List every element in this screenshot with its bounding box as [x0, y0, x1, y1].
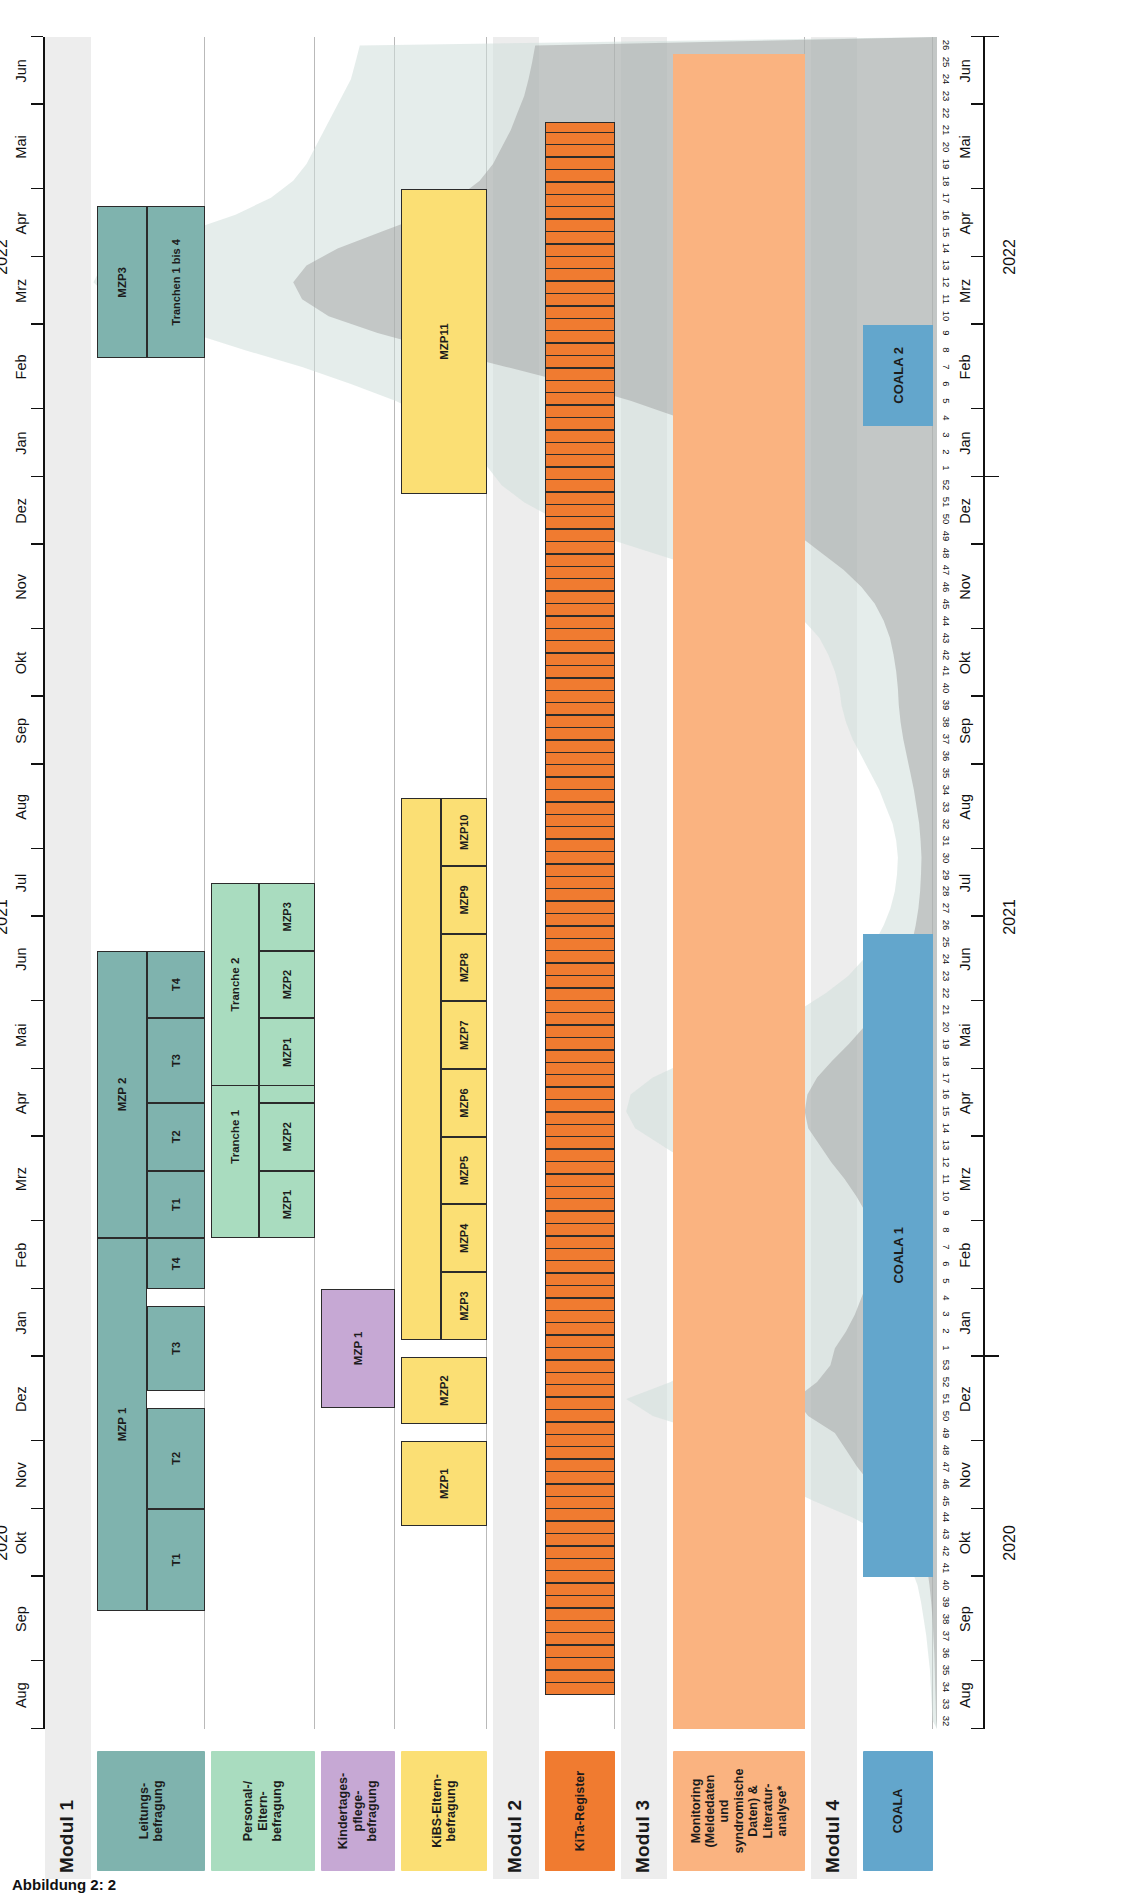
row-label-leitungsbefragung: Leitungs-befragung [97, 1751, 205, 1871]
gantt-segment-personal-elternbefragung-0-1[interactable]: MZP2 [259, 1102, 315, 1170]
gantt-segment-leitungsbefragung-1-0[interactable]: T1 [147, 1170, 205, 1238]
week-label-99: 26 [941, 40, 952, 51]
gantt-segment-personal-elternbefragung-0-0[interactable]: MZP1 [259, 1170, 315, 1238]
gantt-bar-kita-register-0[interactable] [545, 121, 615, 1695]
gantt-bar-coala-1[interactable]: COALA 2 [863, 324, 933, 426]
month-tick-16 [971, 543, 983, 544]
year-label-2020: 2020 [1001, 1525, 1019, 1561]
month-tick-6 [971, 1287, 983, 1288]
axis-baseline [983, 37, 985, 1729]
gantt-segment-leitungsbefragung-1-1[interactable]: T2 [147, 1102, 205, 1170]
top-month-tick-0 [31, 1727, 43, 1728]
top-month-label-17: Jan [13, 431, 29, 454]
week-label-54: 33 [941, 801, 952, 812]
gantt-bar-leitungsbefragung-2[interactable]: MZP3 [97, 206, 147, 358]
gantt-segment-personal-elternbefragung-1-0[interactable]: MZP1 [259, 1018, 315, 1086]
week-label-39: 18 [941, 1055, 952, 1066]
week-label-53: 32 [941, 818, 952, 829]
gantt-segment-kibs-elternbefragung-2-1[interactable]: MZP4 [441, 1204, 487, 1272]
gantt-segment-leitungsbefragung-2-0[interactable]: Tranchen 1 bis 4 [147, 206, 205, 358]
gantt-bar-coala-0[interactable]: COALA 1 [863, 933, 933, 1576]
gantt-bar-leitungsbefragung-0[interactable]: MZP 1 [97, 1238, 147, 1610]
week-label-76: 3 [941, 431, 952, 436]
top-month-tick-7 [31, 1220, 43, 1221]
gantt-bar-personal-elternbefragung-1[interactable]: Tranche 2 [211, 883, 259, 1086]
week-label-86: 13 [941, 260, 952, 271]
gantt-segment-kibs-elternbefragung-2-4[interactable]: MZP7 [441, 1001, 487, 1069]
top-month-tick-22 [31, 103, 43, 104]
year-label-2022: 2022 [1001, 239, 1019, 275]
gantt-segment-leitungsbefragung-1-3[interactable]: T4 [147, 950, 205, 1018]
week-label-50: 29 [941, 869, 952, 880]
gantt-segment-kibs-elternbefragung-2-3[interactable]: MZP6 [441, 1069, 487, 1137]
gantt-bar-kibs-elternbefragung-0[interactable]: MZP1 [401, 1441, 487, 1526]
month-tick-13 [971, 763, 983, 764]
top-month-label-9: Mai [13, 1023, 29, 1046]
week-label-93: 20 [941, 141, 952, 152]
top-month-tick-18 [31, 407, 43, 408]
gantt-bar-kibs-elternbefragung-1[interactable]: MZP2 [401, 1356, 487, 1424]
week-label-22: 1 [941, 1345, 952, 1350]
week-label-42: 21 [941, 1004, 952, 1015]
gantt-segment-leitungsbefragung-0-3[interactable]: T4 [147, 1238, 205, 1289]
gantt-segment-leitungsbefragung-0-1[interactable]: T2 [147, 1407, 205, 1509]
month-tick-22 [971, 103, 983, 104]
week-label-85: 12 [941, 277, 952, 288]
gantt-segment-kibs-elternbefragung-2-6[interactable]: MZP9 [441, 866, 487, 934]
week-label-88: 15 [941, 226, 952, 237]
gantt-bar-kibs-elternbefragung-2[interactable] [401, 798, 441, 1339]
week-label-63: 42 [941, 649, 952, 660]
gantt-segment-kibs-elternbefragung-2-2[interactable]: MZP5 [441, 1136, 487, 1204]
top-month-label-5: Jan [13, 1311, 29, 1334]
row-label-kibs-elternbefragung: KiBS-Eltern-befragung [401, 1751, 487, 1871]
month-tick-8 [971, 1135, 983, 1136]
gantt-segment-personal-elternbefragung-1-2[interactable]: MZP3 [259, 883, 315, 951]
week-label-16: 48 [941, 1444, 952, 1455]
month-label-Sep-1: Sep [957, 1606, 973, 1632]
row-label-kita-register: KiTa-Register [545, 1751, 615, 1871]
gantt-segment-kibs-elternbefragung-2-7[interactable]: MZP10 [441, 798, 487, 866]
week-label-47: 26 [941, 920, 952, 931]
top-month-label-3: Nov [13, 1462, 29, 1488]
gantt-bar-monitoring-0[interactable] [673, 53, 805, 1728]
month-tick-17 [971, 475, 983, 476]
month-label-Nov-3: Nov [957, 1462, 973, 1488]
week-label-36: 15 [941, 1106, 952, 1117]
week-label-31: 10 [941, 1190, 952, 1201]
month-tick-15 [971, 627, 983, 628]
week-label-64: 43 [941, 632, 952, 643]
month-tick-0 [971, 1727, 983, 1728]
top-year-label-2021: 2021 [0, 899, 11, 935]
top-month-label-18: Feb [13, 354, 29, 379]
month-label-Jul-11: Jul [957, 873, 973, 892]
top-month-label-8: Apr [13, 1091, 29, 1114]
week-label-81: 8 [941, 347, 952, 352]
top-month-tick-6 [31, 1287, 43, 1288]
gantt-bar-kibs-elternbefragung-3[interactable]: MZP11 [401, 189, 487, 494]
week-label-10: 42 [941, 1546, 952, 1557]
month-tick-18 [971, 407, 983, 408]
top-month-tick-19 [31, 323, 43, 324]
week-label-58: 37 [941, 733, 952, 744]
top-month-tick-14 [31, 695, 43, 696]
month-tick-5 [971, 1355, 983, 1356]
gantt-segment-leitungsbefragung-0-2[interactable]: T3 [147, 1306, 205, 1391]
month-tick-19 [971, 323, 983, 324]
gantt-segment-leitungsbefragung-1-2[interactable]: T3 [147, 1018, 205, 1103]
year-separator-2021 [983, 475, 999, 476]
week-label-65: 44 [941, 615, 952, 626]
month-tick-9 [971, 1067, 983, 1068]
month-tick-3 [971, 1507, 983, 1508]
gantt-segment-kibs-elternbefragung-2-0[interactable]: MZP3 [441, 1272, 487, 1340]
gantt-segment-kibs-elternbefragung-2-5[interactable]: MZP8 [441, 933, 487, 1001]
gantt-bar-leitungsbefragung-1[interactable]: MZP 2 [97, 950, 147, 1238]
gantt-bar-kindertagespflegebefragung-0[interactable]: MZP 1 [321, 1289, 395, 1407]
month-label-Jan-5: Jan [957, 1311, 973, 1334]
week-label-33: 12 [941, 1156, 952, 1167]
month-label-Feb-18: Feb [957, 354, 973, 379]
week-label-46: 25 [941, 936, 952, 947]
week-label-45: 24 [941, 953, 952, 964]
gantt-segment-personal-elternbefragung-1-1[interactable]: MZP2 [259, 950, 315, 1018]
gantt-segment-leitungsbefragung-0-0[interactable]: T1 [147, 1509, 205, 1611]
week-label-75: 2 [941, 448, 952, 453]
